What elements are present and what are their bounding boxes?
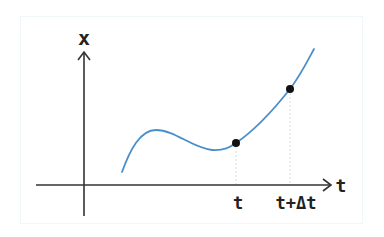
position-curve [122, 49, 314, 172]
tick-label-t: t [233, 193, 243, 213]
position-time-diagram: x t t t+Δt [0, 0, 384, 237]
point-at-t [232, 139, 240, 147]
x-axis-label: t [336, 175, 347, 196]
tick-label-t-plus-dt: t+Δt [276, 193, 317, 213]
y-axis-label: x [78, 26, 90, 50]
point-at-t-plus-dt [286, 85, 294, 93]
